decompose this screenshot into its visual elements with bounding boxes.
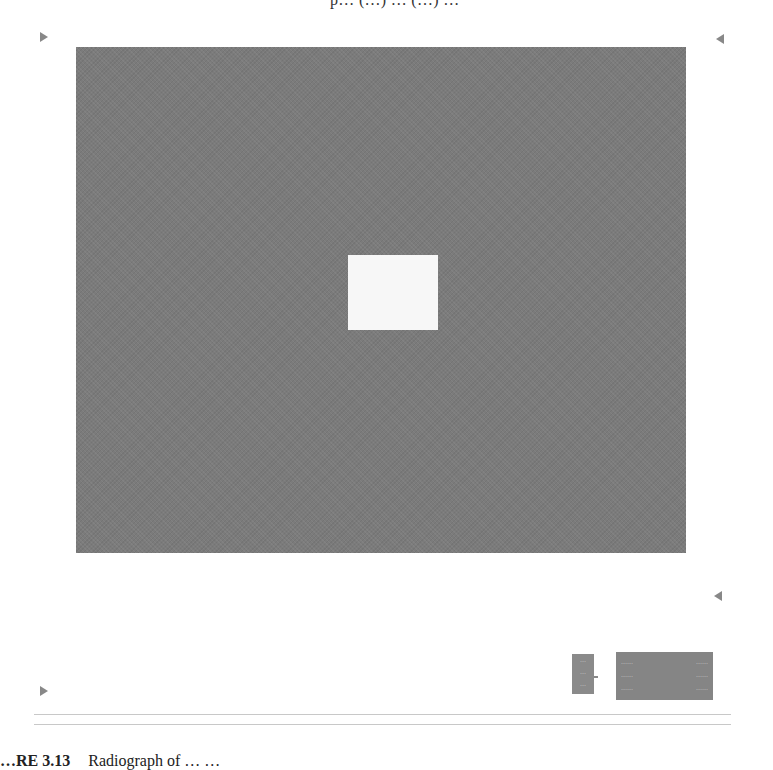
arrow-marker-icon <box>40 32 48 42</box>
legend-row: …… …… <box>621 669 708 682</box>
arrow-marker-icon <box>716 34 724 44</box>
top-caption-fragment: p… (…) … (…) … <box>330 0 773 9</box>
legend-small-line: … <box>572 666 594 678</box>
legend-cell: …… <box>621 669 633 682</box>
legend-box: …… …… …… …… …… …… <box>616 652 713 700</box>
figure-caption: …RE 3.13 Radiograph of … … <box>0 752 220 770</box>
figure-label: …RE 3.13 <box>0 752 70 769</box>
center-white-square <box>348 255 438 330</box>
legend-cell: …… <box>621 656 633 669</box>
legend-small-box: … … … <box>572 654 594 694</box>
legend-row: …… …… <box>621 682 708 695</box>
legend-cell: …… <box>696 669 708 682</box>
divider-rule <box>34 724 731 725</box>
legend-connector <box>594 676 598 678</box>
figure-caption-text: Radiograph of … … <box>88 752 220 769</box>
legend-small-line: … <box>572 678 594 690</box>
legend-cell: …… <box>696 656 708 669</box>
legend-cell: …… <box>621 682 633 695</box>
arrow-marker-icon <box>40 686 48 696</box>
divider-rule <box>34 714 731 715</box>
legend-row: …… …… <box>621 656 708 669</box>
legend-small-line: … <box>572 654 594 666</box>
arrow-marker-icon <box>714 591 722 601</box>
legend-cell: …… <box>696 682 708 695</box>
